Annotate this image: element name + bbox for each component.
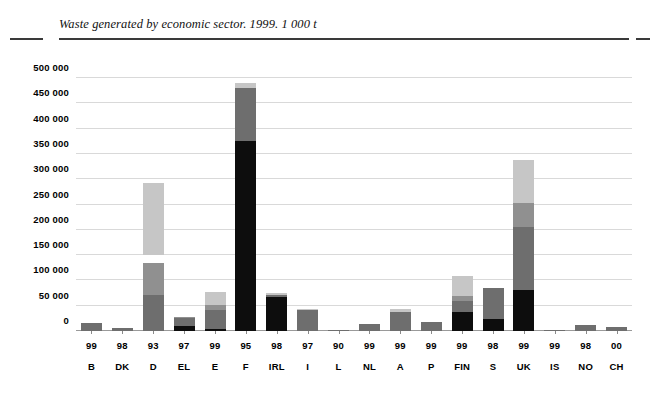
x-axis-tickmark [277, 331, 278, 334]
bar-segment [513, 203, 534, 227]
x-axis-country-label: FIN [447, 361, 478, 372]
header-rule-left [10, 38, 43, 40]
x-axis-country-label: A [385, 361, 416, 372]
bar-segment [205, 292, 226, 305]
bar-segment [421, 322, 442, 331]
plot-area: 050 000100 000150 000200 000250 000300 0… [76, 78, 632, 331]
x-axis-tickmark [91, 331, 92, 334]
bar-segment [81, 323, 102, 331]
bar-segment [297, 310, 318, 331]
bar-column [174, 317, 195, 331]
x-axis-country-label: DK [107, 361, 138, 372]
y-axis-tick-label: 300 000 [33, 163, 69, 174]
x-axis-country-label: F [230, 361, 261, 372]
x-axis-tickmark [369, 331, 370, 334]
x-axis-year-label: 98 [570, 340, 601, 351]
x-axis-tickmark [493, 331, 494, 334]
bar-segment [359, 324, 380, 331]
bar-column [390, 309, 411, 331]
x-axis-country-label: EL [169, 361, 200, 372]
x-axis-tickmark [339, 331, 340, 334]
y-axis-tick-label: 200 000 [33, 213, 69, 224]
x-axis-labels: 99B98DK93D97EL99E95F98IRL97I90L99NL99A99… [76, 331, 632, 393]
bar-column [81, 323, 102, 331]
bar-column [513, 160, 534, 331]
y-axis-tick-label: 0 [64, 315, 69, 326]
x-axis-year-label: 99 [76, 340, 107, 351]
x-axis-year-label: 99 [447, 340, 478, 351]
x-axis-tickmark [462, 331, 463, 334]
bar-series-container [76, 78, 632, 331]
header-rule-right [636, 38, 650, 40]
y-axis-tick-label: 500 000 [33, 62, 69, 73]
bar-column [297, 309, 318, 331]
x-axis-tickmark [431, 331, 432, 334]
x-axis-year-label: 99 [416, 340, 447, 351]
x-axis-country-label: E [200, 361, 231, 372]
bar-segment [483, 319, 504, 331]
bar-segment [143, 263, 164, 294]
x-axis-tickmark [153, 331, 154, 334]
x-axis-country-label: CH [601, 361, 632, 372]
y-axis-tick-label: 100 000 [33, 264, 69, 275]
bar-segment [513, 227, 534, 289]
x-axis-year-label: 00 [601, 340, 632, 351]
x-axis-country-label: IS [539, 361, 570, 372]
x-axis-country-label: IRL [261, 361, 292, 372]
x-axis-tickmark [555, 331, 556, 334]
bar-segment [513, 290, 534, 331]
bar-segment [390, 312, 411, 331]
x-axis-year-label: 99 [354, 340, 385, 351]
x-axis-year-label: 97 [292, 340, 323, 351]
bar-column [235, 83, 256, 331]
x-axis-country-label: B [76, 361, 107, 372]
x-axis-tickmark [586, 331, 587, 334]
x-axis-year-label: 98 [261, 340, 292, 351]
x-axis-country-label: UK [508, 361, 539, 372]
x-axis-tickmark [400, 331, 401, 334]
x-axis-year-label: 93 [138, 340, 169, 351]
bar-segment [483, 288, 504, 319]
x-axis-country-label: NO [570, 361, 601, 372]
x-axis-year-label: 95 [230, 340, 261, 351]
bar-segment [205, 310, 226, 329]
y-axis-tick-label: 350 000 [33, 137, 69, 148]
x-axis-year-label: 99 [385, 340, 416, 351]
x-axis-tickmark [524, 331, 525, 334]
bar-segment-gap [143, 255, 164, 263]
x-axis-year-label: 99 [539, 340, 570, 351]
y-axis-tick-label: 450 000 [33, 87, 69, 98]
x-axis-tickmark [617, 331, 618, 334]
x-axis-country-label: P [416, 361, 447, 372]
bar-segment [266, 297, 287, 331]
x-axis-year-label: 90 [323, 340, 354, 351]
x-axis-tickmark [308, 331, 309, 334]
x-axis-country-label: NL [354, 361, 385, 372]
bar-column [266, 293, 287, 331]
x-axis-country-label: I [292, 361, 323, 372]
bar-segment [235, 88, 256, 141]
x-axis-tickmark [215, 331, 216, 334]
bar-segment [452, 312, 473, 331]
bar-segment [452, 276, 473, 295]
x-axis-tickmark [184, 331, 185, 334]
y-axis-tick-label: 50 000 [39, 289, 69, 300]
x-axis-country-label: L [323, 361, 354, 372]
header-rule-main [59, 38, 629, 40]
y-axis-tick-label: 150 000 [33, 239, 69, 250]
x-axis-year-label: 99 [200, 340, 231, 351]
bar-segment [174, 318, 195, 326]
y-axis-tick-label: 250 000 [33, 188, 69, 199]
x-axis-country-label: S [478, 361, 509, 372]
bar-segment [452, 301, 473, 312]
x-axis-tickmark [246, 331, 247, 334]
page-title: Waste generated by economic sector. 1999… [59, 17, 317, 32]
x-axis-year-label: 98 [478, 340, 509, 351]
bar-column [421, 322, 442, 331]
x-axis-year-label: 99 [508, 340, 539, 351]
x-axis-year-label: 97 [169, 340, 200, 351]
bar-segment [143, 295, 164, 331]
bar-column [359, 324, 380, 331]
y-axis-tick-label: 400 000 [33, 112, 69, 123]
bar-segment [513, 160, 534, 203]
